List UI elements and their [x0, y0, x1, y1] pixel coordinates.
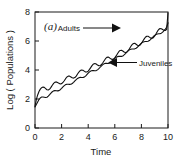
x-axis-title: Time [91, 146, 112, 157]
x-tick-label: 8 [139, 132, 144, 142]
y-axis-title: Log ( Populations ) [4, 30, 15, 110]
y-tick-label: 6 [25, 36, 30, 46]
population-log-chart: 0246810 02468 (a) Adults Juveniles Time … [0, 0, 185, 165]
y-tick-label: 0 [25, 123, 30, 133]
annotation-label-juveniles: Juveniles [139, 59, 172, 68]
chart-background [0, 0, 185, 165]
figure-panel-a: 0246810 02468 (a) Adults Juveniles Time … [0, 0, 185, 165]
y-tick-label: 4 [25, 65, 30, 75]
panel-label: (a) [44, 20, 57, 33]
x-tick-label: 4 [86, 132, 91, 142]
x-tick-label: 0 [32, 132, 37, 142]
y-tick-label: 2 [25, 94, 30, 104]
annotation-label-adults: Adults [58, 24, 80, 33]
y-tick-label: 8 [25, 7, 30, 17]
x-tick-label: 10 [163, 132, 173, 142]
x-tick-label: 2 [59, 132, 64, 142]
x-tick-label: 6 [112, 132, 117, 142]
